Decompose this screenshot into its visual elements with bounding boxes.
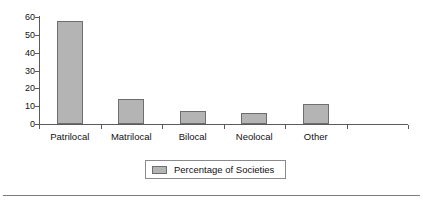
x-axis-tick-mark [224, 125, 225, 129]
chart-legend: Percentage of Societies [145, 160, 286, 179]
x-axis-category-label: Bilocal [162, 131, 224, 142]
y-axis-tick-label: 10 [25, 102, 35, 111]
x-axis-tick-mark [101, 125, 102, 129]
bars-group [39, 14, 408, 124]
x-axis-tick-mark [408, 125, 409, 129]
legend-swatch-icon [152, 166, 167, 174]
bar [57, 21, 83, 124]
bar [241, 113, 267, 124]
x-axis-category-label: Other [285, 131, 347, 142]
y-axis-tick-label: 50 [25, 30, 35, 39]
bar-chart-figure: 0102030405060 PatrilocalMatrilocalBiloca… [0, 0, 423, 204]
x-axis-category-label: Patrilocal [39, 131, 101, 142]
y-axis-tick-label: 20 [25, 84, 35, 93]
y-axis-tick-label: 60 [25, 13, 35, 22]
x-axis-tick-mark [39, 125, 40, 129]
bottom-divider [3, 195, 420, 196]
y-axis-tick-label: 40 [25, 48, 35, 57]
bar [180, 111, 206, 124]
x-axis-tick-mark [285, 125, 286, 129]
x-axis-tick-mark [347, 125, 348, 129]
y-axis-tick-label: 0 [30, 120, 35, 129]
bar [303, 104, 329, 125]
y-axis-tick-label: 30 [25, 66, 35, 75]
x-axis-category-label: Neolocal [224, 131, 286, 142]
x-axis-tick-mark [162, 125, 163, 129]
legend-label: Percentage of Societies [174, 164, 274, 175]
x-axis-category-label: Matrilocal [101, 131, 163, 142]
bar [118, 99, 144, 124]
